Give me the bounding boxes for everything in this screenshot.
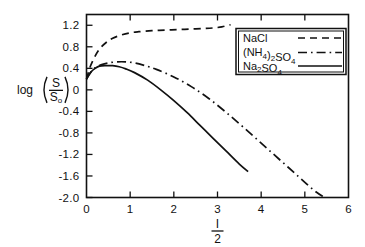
x-tick-label: 5: [301, 203, 308, 215]
y-tick-label: -1.2: [58, 148, 79, 160]
y-axis-ticks: [87, 25, 93, 197]
solubility-chart-figure: 0123456 1.20.80.40-0.4-0.8-1.2-1.6-2.0 N…: [0, 0, 365, 247]
curve-na2so4: [87, 66, 249, 172]
x-tick-label: 6: [345, 203, 352, 215]
x-axis-title-numerator: I: [216, 217, 219, 231]
y-axis-title-paren-right: [65, 77, 68, 103]
y-tick-label: -0.4: [58, 105, 79, 117]
y-tick-label: 0.4: [63, 62, 80, 74]
y-axis-title: logSSo: [17, 76, 68, 106]
x-tick-label: 0: [83, 203, 90, 215]
chart-canvas: 0123456 1.20.80.40-0.4-0.8-1.2-1.6-2.0 N…: [0, 0, 365, 247]
x-tick-label: 3: [214, 203, 221, 215]
y-tick-label: -2.0: [58, 192, 79, 204]
y-axis-title-paren-left: [44, 77, 47, 103]
y-tick-label: 0: [73, 84, 80, 96]
y-axis-title-prefix: log: [17, 83, 33, 97]
x-axis-title: I2: [212, 217, 224, 246]
x-axis-title-denominator: 2: [214, 232, 221, 246]
y-tick-label: 0.8: [63, 41, 80, 53]
x-tick-label: 1: [127, 203, 134, 215]
x-axis-tick-labels: 0123456: [83, 203, 352, 215]
y-axis-title-denominator: So: [50, 90, 63, 106]
y-axis-tick-labels: 1.20.80.40-0.4-0.8-1.2-1.6-2.0: [58, 19, 79, 203]
x-tick-label: 2: [170, 203, 177, 215]
y-axis-title-numerator: S: [52, 76, 60, 90]
y-tick-label: 1.2: [63, 19, 80, 31]
y-tick-label: -1.6: [58, 170, 79, 182]
legend-label-nacl: NaCl: [243, 32, 267, 44]
chart-legend: NaCl(NH4)2SO4Na2SO4: [236, 29, 346, 77]
x-tick-label: 4: [258, 203, 265, 215]
y-tick-label: -0.8: [58, 127, 79, 139]
